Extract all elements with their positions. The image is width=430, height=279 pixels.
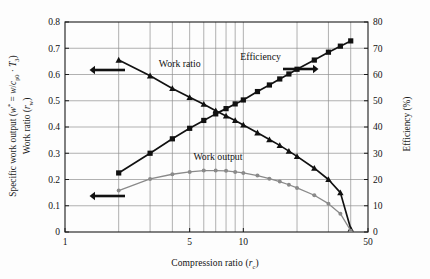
data-point-marker <box>348 38 353 43</box>
data-point-marker <box>326 50 331 55</box>
data-point-marker <box>267 82 272 87</box>
y-left-tick-label: 0.2 <box>48 175 60 185</box>
y-right-tick-label: 20 <box>373 175 383 185</box>
chart-figure: 00.10.20.30.40.50.60.70.8010203040506070… <box>0 0 430 279</box>
data-point-marker <box>287 183 291 187</box>
series-work-ratio <box>115 57 353 232</box>
data-point-marker <box>187 126 192 131</box>
arrow-left-work-ratio <box>90 66 126 74</box>
y-right-tick-label: 80 <box>373 17 383 27</box>
data-point-marker <box>295 186 299 190</box>
y-right-tick-label: 40 <box>373 122 383 132</box>
y-left-tick-label: 0.7 <box>48 44 60 54</box>
data-series-layer <box>115 38 353 232</box>
data-point-marker <box>312 193 316 197</box>
y-left-tick-label: 0.3 <box>48 149 60 159</box>
data-point-marker <box>286 71 291 76</box>
data-point-marker <box>267 177 271 181</box>
data-point-marker <box>188 170 192 174</box>
x-tick-label: 50 <box>363 237 373 247</box>
data-point-marker <box>224 169 228 173</box>
data-point-marker <box>326 202 330 206</box>
data-point-marker <box>241 171 245 175</box>
y-left-tick-label: 0.5 <box>48 96 60 106</box>
data-point-marker <box>278 180 282 184</box>
series-line <box>119 60 351 229</box>
data-point-marker <box>233 101 238 106</box>
y-left-tick-label: 0.8 <box>48 17 60 27</box>
data-point-marker <box>202 169 206 173</box>
annotation-label: Work ratio <box>159 58 201 69</box>
data-point-marker <box>338 44 343 49</box>
y-right-tick-label: 0 <box>373 227 378 237</box>
data-point-marker <box>115 57 121 63</box>
arrow-left-work-output <box>90 192 126 200</box>
data-point-marker <box>148 177 152 181</box>
y-right-tick-label: 10 <box>373 201 383 211</box>
y-right-tick-label: 30 <box>373 149 383 159</box>
annotation-label: Work output <box>193 151 242 162</box>
y-left-tick-label: 0.1 <box>48 201 60 211</box>
data-point-marker <box>170 172 174 176</box>
chart-canvas: 00.10.20.30.40.50.60.70.8010203040506070… <box>0 0 430 279</box>
data-point-marker <box>266 136 272 142</box>
series-work-output <box>117 169 353 233</box>
arrow-head <box>313 65 319 73</box>
data-point-marker <box>223 106 228 111</box>
y-right-tick-label: 70 <box>373 44 383 54</box>
arrow-head <box>90 192 96 200</box>
annotation-label: Efficiency <box>240 51 281 62</box>
data-point-marker <box>312 57 317 62</box>
x-tick-label: 5 <box>187 237 192 247</box>
data-point-marker <box>213 111 218 116</box>
x-tick-label: 10 <box>239 237 249 247</box>
data-point-marker <box>214 169 218 173</box>
y-left-tick-label: 0.6 <box>48 70 60 80</box>
data-point-marker <box>147 151 152 156</box>
data-point-marker <box>117 189 121 193</box>
data-point-marker <box>169 85 175 91</box>
data-point-marker <box>201 118 206 123</box>
y-axis-right-title-text: Efficiency (%) <box>402 64 412 184</box>
y-right-tick-label: 60 <box>373 70 383 80</box>
data-point-marker <box>277 76 282 81</box>
data-point-marker <box>255 174 259 178</box>
data-point-marker <box>338 212 342 216</box>
y-axis-left-title: Specific work output (w* = w/cp0 · T3) W… <box>7 10 33 242</box>
x-tick-label: 1 <box>63 237 68 247</box>
data-point-marker <box>255 89 260 94</box>
data-point-marker <box>241 97 246 102</box>
y-left-tick-label: 0.4 <box>48 122 60 132</box>
x-axis-title: Compression ratio (rc) <box>0 258 430 270</box>
y-right-tick-label: 50 <box>373 96 383 106</box>
data-point-marker <box>116 170 121 175</box>
y-left-tick-label: 0 <box>55 227 60 237</box>
y-axis-right-title: Efficiency (%) <box>402 64 416 184</box>
x-axis-title-text: Compression ratio (rc) <box>171 258 258 268</box>
arrow-head <box>90 66 96 74</box>
data-point-marker <box>233 170 237 174</box>
y-axis-left-title-line1: Specific work output (w* = w/cp0 · T3) <box>4 55 22 196</box>
y-axis-left-title-line2: Work ratio (rw) <box>22 98 36 155</box>
data-point-marker <box>170 136 175 141</box>
